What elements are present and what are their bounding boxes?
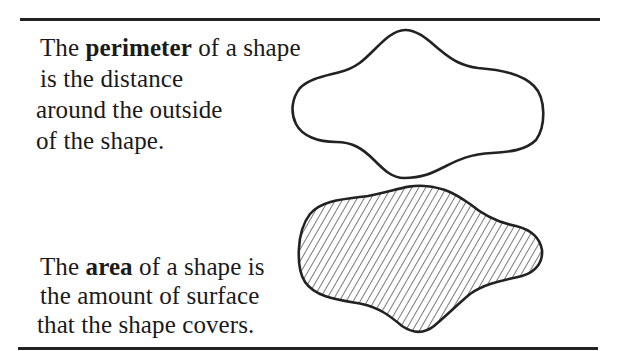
area-term: area [86, 253, 133, 280]
bottom-rule [18, 347, 598, 350]
area-line-2: the amount of surface [40, 281, 265, 310]
perimeter-definition: The perimeter of a shape is the distance… [40, 32, 301, 156]
perimeter-line-3: around the outside [36, 94, 301, 125]
area-definition: The area of a shape is the amount of sur… [40, 252, 265, 339]
perimeter-line-2: is the distance [40, 63, 301, 94]
area-hatched-shape [290, 180, 550, 340]
area-line-1: The area of a shape is [40, 252, 265, 281]
perimeter-term: perimeter [86, 34, 192, 61]
perimeter-outline-shape [293, 30, 544, 178]
top-rule [20, 18, 600, 21]
area-line-3: that the shape covers. [37, 310, 265, 339]
perimeter-line-1: The perimeter of a shape [40, 32, 301, 63]
perimeter-line-4: of the shape. [36, 125, 301, 156]
